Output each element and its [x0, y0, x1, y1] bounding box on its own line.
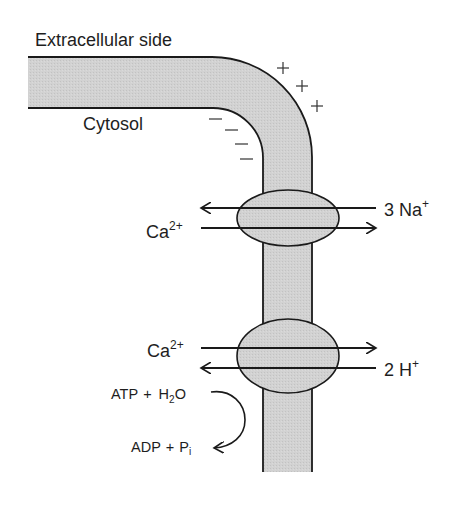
cytosol-label: Cytosol: [83, 114, 143, 134]
membrane-inner-edge: [28, 108, 263, 472]
atpase-protein: [237, 319, 339, 393]
extracellular-label: Extracellular side: [35, 30, 172, 50]
hydrolysis-curved-arrow: [211, 392, 245, 448]
negative-charges: [209, 119, 253, 159]
antiporter-na-label: 3 Na+: [384, 197, 429, 220]
membrane-transport-diagram: Extracellular side Cytosol Ca2+ 3 Na+ Ca…: [0, 0, 462, 507]
plasma-membrane: [28, 57, 312, 472]
atpase-h-label: 2 H+: [384, 357, 419, 380]
na-ca-antiporter: Ca2+ 3 Na+: [146, 190, 429, 246]
plus-sign-icon: [277, 62, 289, 74]
plus-sign-icon: [296, 80, 308, 92]
atp-h2o-label: ATP+H2O: [111, 386, 186, 405]
atpase-ca-label: Ca2+: [147, 338, 184, 361]
adp-pi-label: ADP+Pi: [131, 439, 191, 457]
diagram-svg: Extracellular side Cytosol Ca2+ 3 Na+ Ca…: [0, 0, 462, 507]
plus-sign-icon: [311, 100, 323, 112]
membrane-band: [28, 57, 312, 472]
antiporter-protein: [237, 190, 339, 246]
antiporter-ca-label: Ca2+: [146, 219, 183, 242]
